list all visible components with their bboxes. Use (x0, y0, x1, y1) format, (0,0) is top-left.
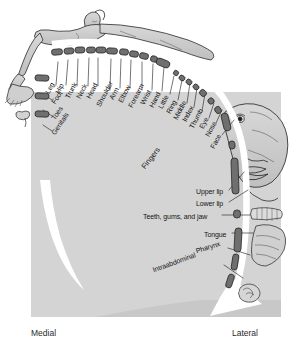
axis-label-medial: Medial (31, 328, 56, 338)
cortex-segment-neck[interactable] (86, 47, 95, 53)
part-label-teeth-gums-and-jaw: Teeth, gums, and jaw (143, 213, 207, 220)
leader-line (170, 76, 174, 94)
cortex-segment-genitals[interactable] (35, 111, 49, 117)
cortex-segment-upper-lip[interactable] (229, 141, 236, 150)
genitals-drawing (16, 111, 30, 127)
part-label-lower-lip: Lower lip (196, 200, 223, 207)
cortex-segment-head[interactable] (96, 47, 106, 53)
leader-line (88, 58, 89, 86)
cortex-segment-leg[interactable] (51, 49, 62, 56)
teeth-jaw-drawing (251, 207, 283, 221)
cortex-segment-arm[interactable] (119, 49, 128, 56)
leader-line (66, 60, 68, 85)
leader-line (77, 59, 78, 86)
leader-line (130, 60, 131, 88)
cortex-segment-trunk[interactable] (75, 47, 85, 54)
cortex-segment-forearm[interactable] (139, 52, 149, 60)
leader-line (162, 67, 164, 91)
foot-drawing (5, 84, 34, 107)
cortex-segment-ring[interactable] (178, 74, 186, 81)
cortex-segment-teeth-gums-jaw[interactable] (234, 210, 241, 218)
cortex-segment-hip[interactable] (64, 48, 74, 55)
homunculus-illustration (0, 0, 306, 348)
cortex-segment-shoulder[interactable] (106, 48, 117, 55)
cortex-segment-foot[interactable] (35, 75, 49, 81)
cortex-segment-little[interactable] (173, 70, 180, 77)
cortex-segment-middle[interactable] (185, 78, 193, 86)
cortex-segment-index[interactable] (192, 83, 200, 91)
axis-label-lateral: Lateral (232, 328, 258, 338)
part-label-tongue: Tongue (204, 231, 226, 238)
cortex-segment-tongue[interactable] (234, 228, 242, 252)
leader-line (152, 64, 153, 90)
cortex-segment-elbow[interactable] (129, 50, 139, 57)
cortex-segment-toes[interactable] (35, 93, 49, 99)
cortex-segment-lower-lip[interactable] (231, 158, 239, 194)
intraabdominal-drawing (239, 284, 261, 302)
part-label-upper-lip: Upper lip (196, 188, 223, 195)
homunculus-figure: LegHipTrunkNeckHeadShoulderArmElbowForea… (0, 0, 306, 348)
leader-line (120, 59, 121, 88)
